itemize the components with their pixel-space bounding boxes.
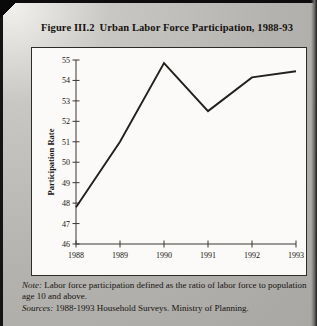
- chart-plot-area: Participation Rate 464748495051525354551…: [31, 47, 307, 276]
- figure-footnotes: Note: Labor force participation defined …: [22, 280, 308, 314]
- sources-label: Sources:: [22, 303, 53, 313]
- y-axis-tick-label: 51: [54, 137, 70, 146]
- figure-number: Figure III.2: [41, 22, 95, 33]
- scanned-page-background: Figure III.2Urban Labor Force Participat…: [0, 0, 317, 326]
- line-chart-svg: [32, 48, 306, 275]
- y-axis-tick-label: 55: [54, 56, 70, 65]
- y-axis-tick-label: 53: [54, 96, 70, 105]
- chart-canvas: Participation Rate 464748495051525354551…: [32, 48, 306, 275]
- x-axis-tick-label: 1993: [288, 251, 304, 260]
- x-axis-tick-label: 1988: [68, 251, 84, 260]
- x-axis-tick-label: 1992: [244, 251, 260, 260]
- sources-text: 1988-1993 Household Surveys. Ministry of…: [55, 303, 248, 313]
- sources-line: Sources: 1988-1993 Household Surveys. Mi…: [22, 303, 308, 314]
- y-axis-tick-label: 52: [54, 117, 70, 126]
- y-axis-tick-label: 46: [54, 240, 70, 249]
- note-label: Note:: [22, 280, 42, 290]
- figure-title-text: Urban Labor Force Participation, 1988-93: [100, 22, 293, 33]
- note-text: Labor force participation defined as the…: [22, 280, 306, 301]
- y-axis-tick-label: 49: [54, 178, 70, 187]
- x-axis-tick-label: 1990: [156, 251, 172, 260]
- y-axis-tick-label: 48: [54, 199, 70, 208]
- figure-title: Figure III.2Urban Labor Force Participat…: [41, 22, 291, 33]
- figure-sheet: Figure III.2Urban Labor Force Participat…: [9, 6, 308, 320]
- y-axis-tick-label: 47: [54, 219, 70, 228]
- y-axis-tick-label: 50: [54, 158, 70, 167]
- x-axis-tick-label: 1989: [112, 251, 128, 260]
- x-axis-tick-label: 1991: [200, 251, 216, 260]
- note-line: Note: Labor force participation defined …: [22, 280, 308, 303]
- y-axis-tick-label: 54: [54, 76, 70, 85]
